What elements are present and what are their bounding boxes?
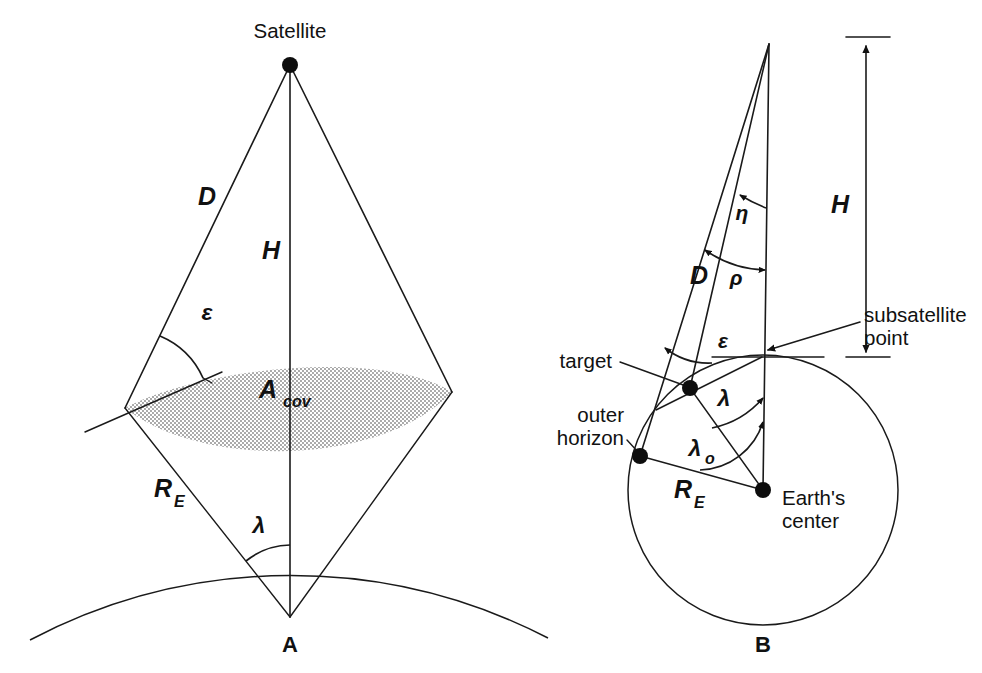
svg-text:o: o [705, 450, 715, 467]
svg-text:point: point [864, 326, 909, 349]
outer-horizon-label: outer horizon [557, 403, 624, 449]
svg-text:subsatellite: subsatellite [864, 303, 967, 326]
horizon-sight-line-b [640, 44, 769, 456]
slant-range-line-right [290, 65, 452, 392]
panel-b-label: B [755, 632, 771, 657]
satellite-coverage-diagram: Satellite D H ε A cov R E λ A [0, 0, 982, 673]
earth-center-dot-b [755, 482, 771, 498]
target-dot-b [682, 380, 698, 396]
subsatellite-point-label: subsatellite point [864, 303, 967, 349]
svg-text:R: R [154, 474, 172, 502]
earth-central-angle-label-a: λ [251, 512, 266, 538]
svg-text:R: R [674, 475, 692, 503]
svg-text:E: E [694, 494, 706, 511]
figure-root: Satellite D H ε A cov R E λ A [0, 0, 982, 673]
elevation-angle-label-b: ε [718, 329, 729, 352]
elevation-angle-label-a: ε [201, 299, 213, 325]
satellite-label: Satellite [254, 19, 327, 42]
svg-text:center: center [782, 509, 839, 532]
panel-a: Satellite D H ε A cov R E λ A [30, 19, 548, 657]
svg-text:Earth's: Earth's [782, 486, 845, 509]
satellite-dot-a [282, 57, 298, 73]
nadir-angle-label-b: η [736, 201, 749, 224]
svg-text:outer: outer [577, 403, 624, 426]
nadir-line-b [763, 44, 769, 490]
slant-range-line-b [690, 44, 769, 388]
subsatellite-leader-line [768, 322, 860, 350]
horizon-central-angle-label-b: λ o [687, 435, 715, 467]
earth-radius-label-b: R E [674, 475, 706, 511]
svg-text:λ: λ [687, 435, 702, 461]
local-horizon-tangent-b [656, 357, 762, 410]
target-leader-line [620, 362, 686, 386]
earth-center-label: Earth's center [782, 486, 845, 532]
earth-surface-arc-a [30, 576, 548, 640]
panel-a-label: A [282, 632, 298, 657]
outer-horizon-dot-b [632, 448, 648, 464]
altitude-label-b: H [831, 190, 850, 218]
svg-text:A: A [258, 375, 277, 403]
svg-text:E: E [174, 493, 186, 510]
svg-text:horizon: horizon [557, 426, 624, 449]
slant-range-label-a: D [198, 182, 216, 210]
earth-radius-to-horizon-b [640, 456, 763, 490]
panel-b: H η D ρ ε λ λ o R E subsatellite point t… [557, 37, 967, 657]
svg-text:cov: cov [283, 393, 312, 410]
earth-central-angle-label-b: λ [716, 385, 731, 411]
target-label: target [560, 349, 613, 372]
rho-angle-label-b: ρ [729, 266, 743, 289]
earth-central-angle-arc-a [246, 545, 290, 561]
slant-range-label-b: D [690, 261, 708, 289]
altitude-label-a: H [262, 236, 281, 264]
elevation-angle-arc-a [160, 336, 203, 378]
